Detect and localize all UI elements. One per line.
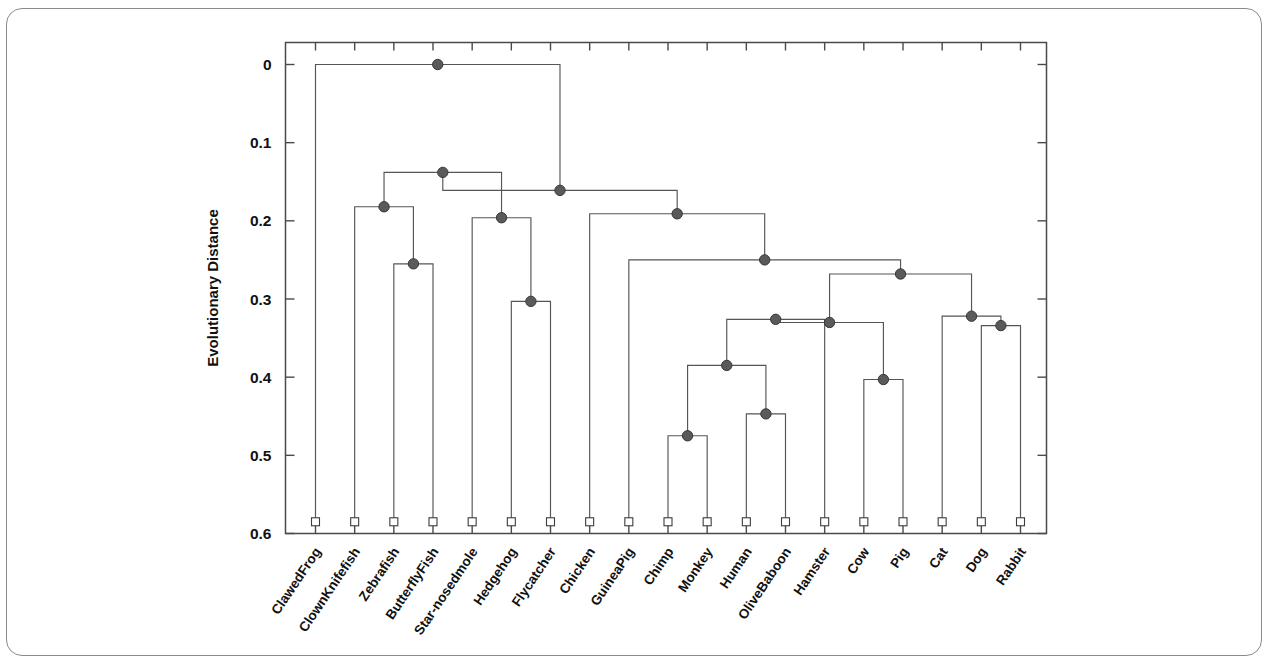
dendrogram-node-marker xyxy=(408,259,418,269)
y-tick-label: 0.6 xyxy=(250,525,272,542)
leaf-marker xyxy=(312,518,320,526)
dendrogram-link xyxy=(394,264,433,522)
leaf-marker xyxy=(938,518,946,526)
leaf-marker xyxy=(782,518,790,526)
dendrogram-node-marker xyxy=(722,360,732,370)
leaf-marker xyxy=(1017,518,1025,526)
dendrogram-link xyxy=(727,319,825,521)
dendrogram-link xyxy=(688,365,766,435)
leaf-marker xyxy=(547,518,555,526)
x-tick-label: Monkey xyxy=(675,544,716,594)
leaf-marker xyxy=(899,518,907,526)
dendrogram-node-marker xyxy=(555,185,565,195)
dendrogram-link xyxy=(629,260,901,522)
dendrogram-node-marker xyxy=(966,311,976,321)
x-tick-label: Dog xyxy=(963,545,990,575)
leaf-marker xyxy=(429,518,437,526)
x-tick-label: Cat xyxy=(926,544,951,571)
dendrogram-svg: 00.10.20.30.40.50.6Evolutionary Distance… xyxy=(0,0,1279,664)
dendrogram-node-marker xyxy=(526,296,536,306)
leaf-marker xyxy=(860,518,868,526)
y-axis-title: Evolutionary Distance xyxy=(204,209,221,367)
y-tick-label: 0.1 xyxy=(250,134,272,151)
tree-nodes-group xyxy=(379,59,1006,441)
x-tick-label: Cow xyxy=(844,544,873,576)
y-tick-label: 0 xyxy=(263,56,272,73)
y-tick-label: 0.3 xyxy=(250,291,272,308)
leaf-marker xyxy=(977,518,985,526)
axes-group xyxy=(286,43,1047,534)
leaf-marker xyxy=(821,518,829,526)
plot-frame xyxy=(286,43,1047,534)
dendrogram-node-marker xyxy=(824,317,834,327)
dendrogram-node-marker xyxy=(771,314,781,324)
y-tick-label: 0.2 xyxy=(250,212,272,229)
leaf-marker xyxy=(390,518,398,526)
dendrogram-figure: 00.10.20.30.40.50.6Evolutionary Distance… xyxy=(0,0,1279,664)
dendrogram-link xyxy=(776,319,884,379)
x-tick-label: Rabbit xyxy=(993,544,1029,588)
x-axis-labels-group: ClawedFrogClownKnifefishZebrafishButterf… xyxy=(268,544,1029,638)
dendrogram-link xyxy=(511,301,550,521)
leaf-marker xyxy=(664,518,672,526)
dendrogram-node-marker xyxy=(496,213,506,223)
dendrogram-node-marker xyxy=(759,255,769,265)
dendrogram-link xyxy=(864,380,903,522)
x-tick-label: Human xyxy=(717,545,755,591)
tree-links-group xyxy=(316,65,1021,522)
dendrogram-link xyxy=(472,218,531,522)
dendrogram-link xyxy=(355,207,414,522)
leaf-marker xyxy=(742,518,750,526)
dendrogram-node-marker xyxy=(672,209,682,219)
x-tick-label: Hamster xyxy=(791,544,834,598)
dendrogram-node-marker xyxy=(433,59,443,69)
leaf-marker xyxy=(625,518,633,526)
dendrogram-link xyxy=(830,274,972,322)
dendrogram-link xyxy=(316,65,560,522)
dendrogram-node-marker xyxy=(996,320,1006,330)
dendrogram-link xyxy=(942,316,1001,522)
dendrogram-node-marker xyxy=(878,374,888,384)
x-tick-label: Pig xyxy=(887,545,911,571)
leaf-marker xyxy=(586,518,594,526)
dendrogram-node-marker xyxy=(379,202,389,212)
dendrogram-link xyxy=(668,436,707,522)
y-tick-label: 0.5 xyxy=(250,447,272,464)
dendrogram-link xyxy=(746,414,785,522)
dendrogram-node-marker xyxy=(438,167,448,177)
y-tick-label: 0.4 xyxy=(250,369,272,386)
leaf-marker xyxy=(468,518,476,526)
leaf-marker xyxy=(703,518,711,526)
leaf-marker xyxy=(351,518,359,526)
y-axis-labels-group: 00.10.20.30.40.50.6Evolutionary Distance xyxy=(204,56,272,542)
x-tick-label: Chimp xyxy=(641,545,677,588)
x-tick-label: Chicken xyxy=(556,545,598,597)
leaf-markers-group xyxy=(312,518,1025,526)
dendrogram-node-marker xyxy=(761,409,771,419)
dendrogram-link xyxy=(981,326,1020,522)
figure-page: 00.10.20.30.40.50.6Evolutionary Distance… xyxy=(0,0,1279,664)
leaf-marker xyxy=(507,518,515,526)
dendrogram-node-marker xyxy=(895,269,905,279)
dendrogram-node-marker xyxy=(682,431,692,441)
